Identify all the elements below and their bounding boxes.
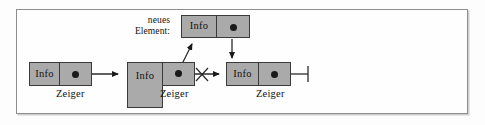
node-left-pointer-cell — [59, 62, 92, 86]
node-right-info-label: Info — [233, 69, 251, 80]
linked-list-insertion-figure: neues Element: Info Info Zeiger Info Zei… — [0, 0, 485, 125]
node-middle-pointer-caption: Zeiger — [160, 88, 189, 99]
new-element-label-line1: neues — [110, 15, 170, 26]
node-right-pointer-dot-icon — [271, 71, 278, 78]
node-middle-pointer-dot-icon — [175, 70, 182, 77]
node-left-info-label: Info — [35, 69, 53, 80]
node-middle-info-label: Info — [136, 71, 154, 82]
node-right-pointer-cell — [258, 62, 291, 86]
node-new-info-label: Info — [190, 21, 208, 32]
node-middle-pointer-cell — [162, 62, 195, 86]
node-new-pointer-dot-icon — [230, 24, 237, 31]
node-right-info-cell: Info — [226, 62, 259, 86]
new-element-label-line2: Element: — [110, 26, 170, 37]
node-middle-info-cell: Info — [127, 62, 163, 108]
node-new-pointer-cell — [216, 15, 250, 38]
node-left-info-cell: Info — [29, 62, 60, 86]
new-element-label: neues Element: — [110, 15, 170, 37]
node-new-info-cell: Info — [181, 15, 217, 38]
node-right-pointer-caption: Zeiger — [256, 88, 285, 99]
node-left-pointer-dot-icon — [72, 71, 79, 78]
node-left-pointer-caption: Zeiger — [56, 88, 85, 99]
